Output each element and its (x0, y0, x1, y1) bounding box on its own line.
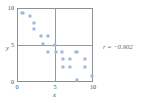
data-point (62, 58, 65, 61)
plot-area (17, 8, 93, 82)
data-point (83, 65, 86, 68)
scatter-plot-figure: y 10 5 0 0 5 10 x r = −0.902 (0, 0, 145, 103)
data-point (28, 15, 31, 18)
data-point (47, 51, 50, 54)
data-point (54, 51, 57, 54)
x-tick-label-10: 10 (87, 84, 99, 90)
data-point (33, 21, 36, 24)
y-tick-label-5: 5 (3, 42, 14, 48)
x-axis-label: x (53, 92, 56, 99)
x-tick-label-0: 0 (11, 84, 23, 90)
x-tick-label-5: 5 (49, 84, 61, 90)
data-point (90, 74, 93, 77)
data-point (53, 43, 56, 46)
data-point (83, 58, 86, 61)
data-point (68, 65, 71, 68)
data-point (62, 65, 65, 68)
data-point (68, 58, 71, 61)
data-point (42, 43, 45, 46)
data-point (21, 11, 24, 14)
data-point (33, 28, 36, 31)
data-point (76, 79, 79, 82)
data-point (47, 35, 50, 38)
correlation-annotation: r = −0.902 (103, 43, 133, 50)
data-point (39, 35, 42, 38)
data-point (61, 51, 64, 54)
y-tick-label-10: 10 (3, 5, 14, 11)
data-point (75, 51, 78, 54)
